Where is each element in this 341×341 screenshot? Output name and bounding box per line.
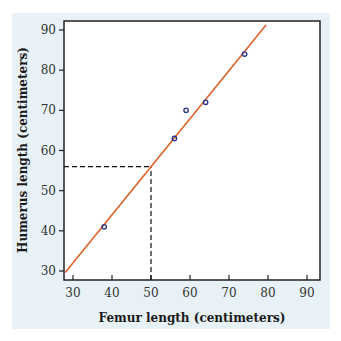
y-tick-label: 60 xyxy=(41,144,56,158)
x-tick-label: 30 xyxy=(65,286,80,300)
x-tick-label: 70 xyxy=(221,286,236,300)
scatter-chart: 30405060708090 30405060708090 Femur leng… xyxy=(0,0,341,341)
x-tick-label: 80 xyxy=(260,286,275,300)
y-tick-label: 50 xyxy=(41,184,56,198)
x-tick-label: 50 xyxy=(143,286,158,300)
y-tick-label: 80 xyxy=(41,63,56,77)
y-tick-label: 90 xyxy=(41,23,56,37)
x-axis-title: Femur length (centimeters) xyxy=(99,311,286,325)
y-axis-title: Humerus length (centimeters) xyxy=(16,47,30,253)
plot-area xyxy=(64,21,320,280)
y-axis-ticks: 30405060708090 xyxy=(41,23,64,278)
y-tick-label: 40 xyxy=(41,224,56,238)
y-tick-label: 30 xyxy=(41,264,56,278)
y-tick-label: 70 xyxy=(41,103,56,117)
x-tick-label: 90 xyxy=(299,286,314,300)
x-tick-label: 60 xyxy=(182,286,197,300)
x-tick-label: 40 xyxy=(104,286,119,300)
